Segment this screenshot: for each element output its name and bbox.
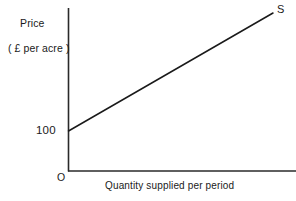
y-axis-title: Price ( £ per acre )	[8, 5, 70, 78]
supply-curve-line	[69, 13, 274, 131]
supply-curve-figure: Price ( £ per acre ) 100 O Quantity supp…	[0, 0, 296, 201]
y-axis-tick-label-100: 100	[36, 124, 56, 137]
y-axis-title-main: Price	[20, 17, 44, 29]
x-axis-title: Quantity supplied per period	[105, 180, 234, 192]
origin-label: O	[57, 171, 65, 183]
supply-curve-label: S	[277, 3, 284, 16]
y-axis-title-unit: ( £ per acre )	[8, 42, 70, 54]
